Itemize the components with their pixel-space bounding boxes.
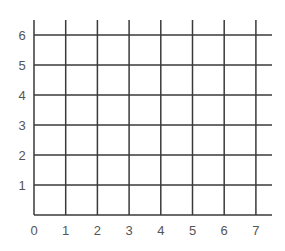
x-tick-label: 1: [62, 223, 69, 238]
y-axis-tick-labels: 123456: [18, 28, 25, 193]
grid-lines: [34, 20, 272, 215]
x-tick-label: 0: [30, 223, 37, 238]
x-axis-tick-labels: 01234567: [30, 223, 259, 238]
y-tick-label: 6: [18, 28, 25, 43]
x-tick-label: 7: [252, 223, 259, 238]
x-tick-label: 5: [189, 223, 196, 238]
y-tick-label: 2: [18, 148, 25, 163]
y-tick-label: 1: [18, 178, 25, 193]
coordinate-grid: 01234567 123456: [0, 0, 285, 251]
x-tick-label: 2: [94, 223, 101, 238]
x-tick-label: 3: [125, 223, 132, 238]
y-tick-label: 4: [18, 88, 25, 103]
y-tick-label: 3: [18, 118, 25, 133]
y-tick-label: 5: [18, 58, 25, 73]
x-tick-label: 4: [157, 223, 164, 238]
x-tick-label: 6: [221, 223, 228, 238]
